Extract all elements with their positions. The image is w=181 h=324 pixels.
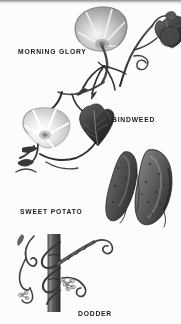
label-morning-glory: MORNING GLORY: [18, 49, 87, 56]
label-sweet-potato: SWEET POTATO: [20, 209, 82, 216]
label-dodder: DODDER: [78, 311, 112, 318]
label-bindweed: BINDWEED: [112, 117, 155, 124]
sweet-potato-illustration: [104, 148, 181, 232]
botanical-plate: MORNING GLORY BINDWEED SWEET POTATO DODD…: [0, 0, 181, 324]
dodder-illustration: [14, 234, 126, 314]
